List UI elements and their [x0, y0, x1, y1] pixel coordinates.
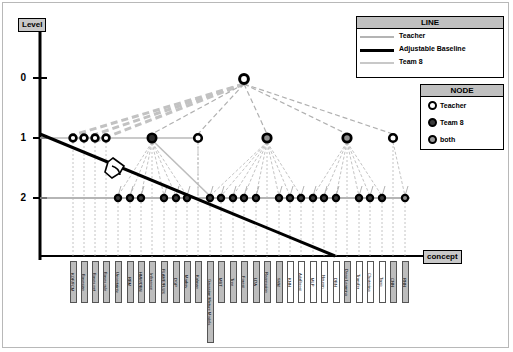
- concept-label: Forest: [241, 261, 248, 303]
- concept-label: Transfer: [356, 261, 363, 303]
- concept-label: RBM: [127, 261, 134, 303]
- concept-label: FLAME/FLUX: [161, 261, 168, 303]
- concept-label: Regression: [264, 261, 271, 303]
- concept-label: RNN: [402, 261, 409, 303]
- concept-label: DGP: [173, 261, 180, 303]
- concept-label: Kalman: [195, 261, 202, 303]
- concept-label: Bayes net: [92, 261, 99, 303]
- concept-label: DBN: [333, 261, 340, 303]
- concept-label: Clustering: [367, 261, 374, 303]
- concept-label: MBT: [218, 261, 225, 303]
- concept-label: SVM: [276, 261, 283, 303]
- concept-label: Deep Learning: [344, 261, 351, 303]
- concept-label: AdaBoost: [298, 261, 305, 303]
- concept-label: KNN: [287, 261, 294, 303]
- concept-label: MLP: [310, 261, 317, 303]
- concept-label: Tree: [230, 261, 237, 303]
- concept-label: Neuron: [321, 261, 328, 303]
- concept-label: Inference: [149, 261, 156, 303]
- concept-label: Uncertainty: [115, 261, 122, 303]
- concept-label: CNN: [390, 261, 397, 303]
- concept-label: KOF/FCM: [70, 261, 77, 303]
- concept-label: Gaussian Mixture Models: [207, 261, 214, 343]
- concept-label: Markov: [184, 261, 191, 303]
- concept-label-row: KOF/FCMBayesianBayes netBayes ruleUncert…: [0, 0, 513, 352]
- concept-label: Bayes rule: [103, 261, 110, 303]
- concept-label: Bayesian: [81, 261, 88, 303]
- concept-label: LDA: [253, 261, 260, 303]
- concept-label: HMM/DBN: [138, 261, 145, 303]
- concept-label: Topic: [379, 261, 386, 303]
